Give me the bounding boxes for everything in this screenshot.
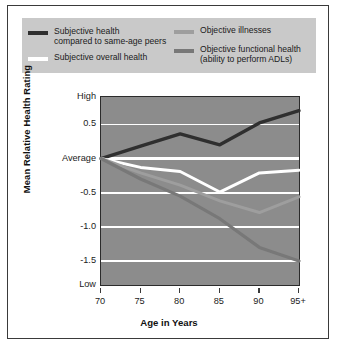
legend-swatch-objective-functional — [174, 49, 194, 53]
y-tick-label-3: -1.0 — [58, 221, 96, 231]
legend-item-objective-functional: Objective functional health (ability to … — [174, 44, 301, 64]
x-tick-label-0: 70 — [95, 296, 105, 306]
x-tick-3 — [219, 288, 220, 293]
legend-column-right: Objective illnesses Objective functional… — [174, 18, 316, 73]
x-axis-title: Age in Years — [8, 317, 330, 328]
x-tick-label-2: 80 — [174, 296, 184, 306]
legend-label-objective-functional: Objective functional health (ability to … — [200, 44, 301, 64]
y-tick-label-high: High — [58, 91, 96, 101]
x-tick-0 — [100, 288, 101, 293]
y-axis-title-wrap: Mean Relative Health Rating — [22, 96, 36, 306]
legend-swatch-objective-illnesses — [174, 30, 194, 34]
x-tick-label-4: 90 — [253, 296, 263, 306]
y-tick-label-4: -1.5 — [58, 255, 96, 265]
x-tick-4 — [258, 288, 259, 293]
legend-item-objective-illnesses: Objective illnesses — [174, 25, 271, 35]
legend-label-subjective-peers: Subjective health compared to same-age p… — [54, 26, 166, 46]
chart-figure: Subjective health compared to same-age p… — [7, 5, 329, 339]
x-tick-label-3: 85 — [214, 296, 224, 306]
y-tick-label-2: -0.5 — [58, 187, 96, 197]
series-line-0 — [101, 111, 299, 159]
legend-label-subjective-overall: Subjective overall health — [54, 52, 147, 62]
legend-column-left: Subjective health compared to same-age p… — [28, 18, 170, 73]
plot-area — [100, 96, 300, 286]
x-axis-tick-labels: 707580859095+ — [100, 288, 300, 310]
legend-item-subjective-overall: Subjective overall health — [28, 52, 147, 62]
y-axis-title: Mean Relative Health Rating — [21, 44, 32, 214]
y-tick-label-0: 0.5 — [58, 118, 96, 128]
y-axis-tick-labels: 0.5Average-0.5-1.0-1.5HighLow — [60, 96, 96, 286]
legend-label-objective-illnesses: Objective illnesses — [200, 25, 271, 35]
legend-swatch-subjective-peers — [28, 31, 48, 35]
y-tick-label-low: Low — [58, 279, 96, 289]
x-tick-label-5: 95+ — [290, 296, 306, 306]
y-tick-label-1: Average — [58, 153, 96, 163]
plot-wrapper: 0.5Average-0.5-1.0-1.5HighLow 7075808590… — [60, 87, 306, 295]
x-tick-5 — [298, 288, 299, 293]
x-tick-label-1: 75 — [134, 296, 144, 306]
x-tick-1 — [140, 288, 141, 293]
series-lines — [101, 97, 299, 285]
x-tick-2 — [179, 288, 180, 293]
legend-item-subjective-peers: Subjective health compared to same-age p… — [28, 26, 166, 46]
chart-legend: Subjective health compared to same-age p… — [22, 18, 316, 73]
